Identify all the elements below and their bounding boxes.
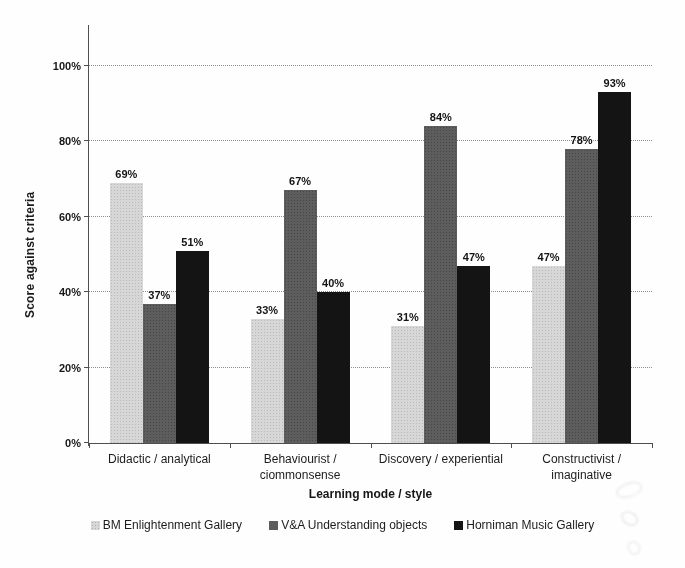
legend-swatch-icon bbox=[454, 521, 463, 530]
bar: 51% bbox=[176, 251, 209, 443]
bar-value-label: 47% bbox=[463, 251, 485, 263]
y-tick-label: 100% bbox=[37, 60, 81, 72]
bar-value-label: 84% bbox=[430, 111, 452, 123]
bar-value-label: 69% bbox=[115, 168, 137, 180]
legend-item: BM Enlightenment Gallery bbox=[91, 518, 242, 532]
y-tick-label: 60% bbox=[37, 211, 81, 223]
x-axis-title: Learning mode / style bbox=[89, 487, 652, 501]
x-tick-mark bbox=[652, 443, 653, 448]
y-tick-mark bbox=[84, 367, 89, 368]
legend: BM Enlightenment GalleryV&A Understandin… bbox=[0, 518, 685, 532]
bar: 67% bbox=[284, 190, 317, 443]
bar: 40% bbox=[317, 292, 350, 443]
y-tick-mark bbox=[84, 216, 89, 217]
legend-item: V&A Understanding objects bbox=[269, 518, 427, 532]
x-category-label: Behaviourist / ciommonsense bbox=[230, 451, 371, 483]
legend-swatch-icon bbox=[269, 521, 278, 530]
bar: 93% bbox=[598, 92, 631, 443]
bar: 47% bbox=[457, 266, 490, 443]
bar-value-label: 33% bbox=[256, 304, 278, 316]
legend-label: BM Enlightenment Gallery bbox=[103, 518, 242, 532]
y-tick-label: 0% bbox=[37, 437, 81, 449]
scan-artifact bbox=[625, 539, 642, 557]
y-tick-label: 20% bbox=[37, 362, 81, 374]
x-category-label: Didactic / analytical bbox=[89, 451, 230, 483]
y-tick-label: 40% bbox=[37, 286, 81, 298]
y-tick-mark bbox=[84, 291, 89, 292]
bar-group: 69%37%51% bbox=[89, 66, 230, 443]
bar: 47% bbox=[532, 266, 565, 443]
y-tick-label: 80% bbox=[37, 135, 81, 147]
x-tick-mark bbox=[89, 443, 90, 448]
bar: 31% bbox=[391, 326, 424, 443]
x-category-label: Discovery / experiential bbox=[371, 451, 512, 483]
bar-value-label: 37% bbox=[148, 289, 170, 301]
bar: 84% bbox=[424, 126, 457, 443]
legend-label: Horniman Music Gallery bbox=[466, 518, 594, 532]
x-tick-mark bbox=[371, 443, 372, 448]
bar: 37% bbox=[143, 304, 176, 443]
bar: 69% bbox=[110, 183, 143, 443]
y-tick-mark bbox=[84, 140, 89, 141]
bar-value-label: 47% bbox=[538, 251, 560, 263]
y-axis-title: Score against criteria bbox=[22, 66, 38, 443]
bar-value-label: 31% bbox=[397, 311, 419, 323]
legend-item: Horniman Music Gallery bbox=[454, 518, 594, 532]
bar-value-label: 78% bbox=[571, 134, 593, 146]
bar-value-label: 40% bbox=[322, 277, 344, 289]
bar-value-label: 93% bbox=[604, 77, 626, 89]
plot-area: 0%20%40%60%80%100%69%37%51%33%67%40%31%8… bbox=[89, 66, 652, 444]
y-tick-mark bbox=[84, 65, 89, 66]
x-axis-labels: Didactic / analyticalBehaviourist / ciom… bbox=[89, 451, 652, 483]
bar-value-label: 67% bbox=[289, 175, 311, 187]
bar: 78% bbox=[565, 149, 598, 443]
legend-label: V&A Understanding objects bbox=[281, 518, 427, 532]
bar: 33% bbox=[251, 319, 284, 443]
bar-group: 31%84%47% bbox=[371, 66, 512, 443]
bar-group: 33%67%40% bbox=[230, 66, 371, 443]
bar-group: 47%78%93% bbox=[511, 66, 652, 443]
x-category-label: Constructivist / imaginative bbox=[511, 451, 652, 483]
bar-value-label: 51% bbox=[181, 236, 203, 248]
x-tick-mark bbox=[511, 443, 512, 448]
x-tick-mark bbox=[230, 443, 231, 448]
legend-swatch-icon bbox=[91, 521, 100, 530]
bar-chart: Score against criteria 0%20%40%60%80%100… bbox=[0, 0, 685, 568]
